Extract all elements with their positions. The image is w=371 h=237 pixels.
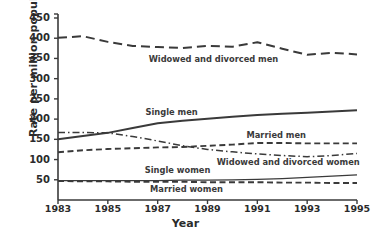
x-tick-label: 1987 [138,203,178,214]
x-axis-title: Year [0,217,371,230]
y-tick-label: 400 [20,32,50,43]
series-line [58,143,357,152]
x-tick-label: 1985 [88,203,128,214]
x-tick-label: 1989 [188,203,228,214]
y-tick-label: 450 [20,12,50,23]
x-tick-label: 1993 [287,203,327,214]
plot-area [0,0,371,237]
series-label: Single men [146,107,198,117]
series-line [58,181,357,183]
series-label: Widowed and divorced women [217,157,360,167]
series-line [58,36,357,55]
y-tick-label: 300 [20,73,50,84]
x-tick-label: 1991 [237,203,277,214]
line-chart: Rate per million population Year 5010015… [0,0,371,237]
axes [54,14,357,204]
y-tick-label: 100 [20,154,50,165]
series-line [58,175,357,181]
series-line [58,110,357,139]
series-label: Single women [145,165,211,175]
series-label: Married women [150,184,223,194]
series-label: Widowed and divorced men [149,54,279,64]
y-tick-label: 350 [20,52,50,63]
x-tick-label: 1983 [38,203,78,214]
y-tick-label: 200 [20,113,50,124]
x-tick-label: 1995 [337,203,371,214]
y-tick-label: 50 [20,174,50,185]
series-line [58,132,357,156]
series-label: Married men [247,130,307,140]
y-tick-label: 250 [20,93,50,104]
y-tick-label: 150 [20,133,50,144]
